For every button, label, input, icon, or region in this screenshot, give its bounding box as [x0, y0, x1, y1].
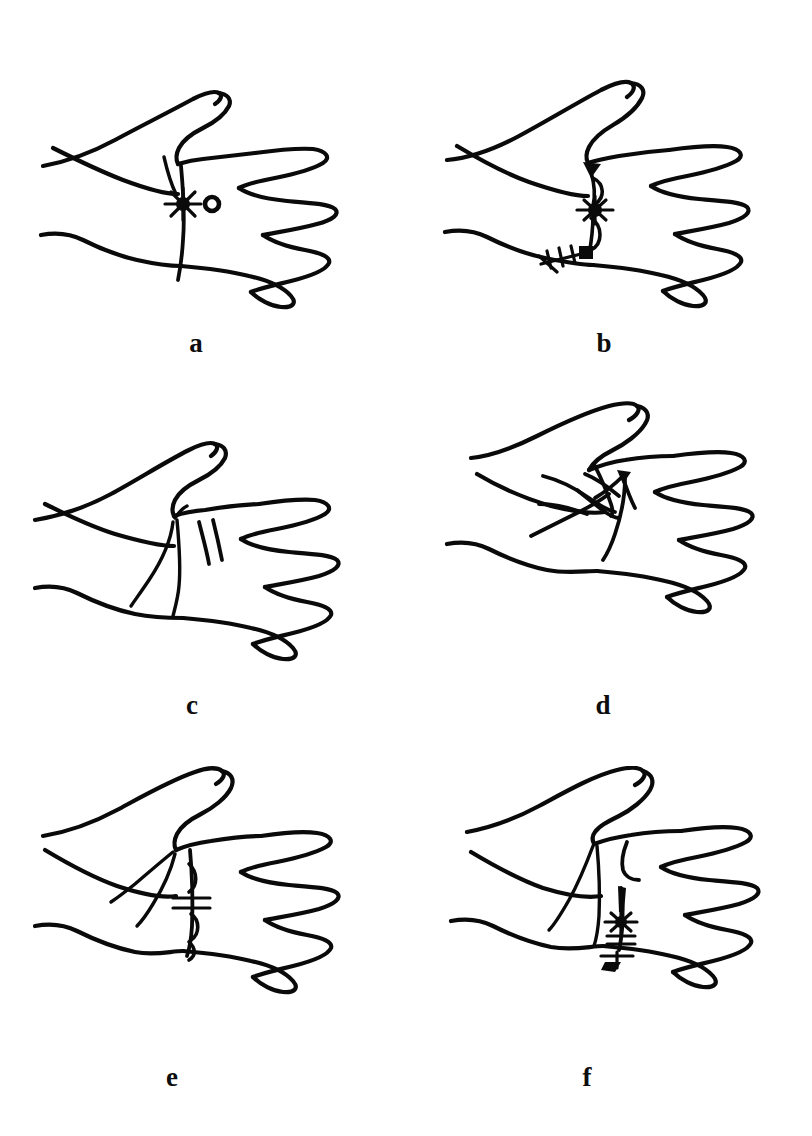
panel-grid: a — [0, 0, 812, 1136]
hand-drawing-c — [23, 400, 383, 672]
palmar-crease-2-c — [173, 520, 180, 616]
star-knot-icon — [577, 196, 613, 224]
panel-c: c — [0, 372, 406, 744]
wrist-contour — [447, 543, 597, 572]
hand-drawing-d — [429, 400, 789, 672]
panel-label-a: a — [189, 330, 203, 357]
index-finger-contour — [655, 452, 745, 492]
panel-a: a — [0, 0, 406, 372]
ring-finger-contour — [253, 920, 331, 977]
thumb-upper-contour — [467, 768, 645, 832]
open-circle-icon — [205, 197, 219, 211]
web-apex-contour — [176, 836, 261, 850]
panel-d: d — [406, 372, 812, 744]
middle-finger-contour — [241, 872, 339, 920]
little-finger-contour — [181, 266, 294, 307]
ring-finger-contour — [253, 587, 331, 644]
middle-finger-contour — [655, 492, 753, 540]
little-finger-contour — [597, 571, 710, 612]
wrist-contour — [35, 925, 183, 954]
star-knot-icon — [605, 910, 637, 934]
middle-finger-contour — [651, 186, 749, 234]
hand-drawing-b — [429, 52, 789, 324]
hook-flap-mark-f — [622, 842, 639, 880]
thenar-lower-contour — [45, 504, 174, 546]
thenar-lower-contour — [45, 850, 176, 897]
incision-mark-1-c — [199, 522, 209, 564]
dart-marker-f — [618, 886, 626, 912]
middle-finger-contour — [661, 867, 759, 915]
panel-b: b — [406, 0, 812, 372]
hand-drawing-a — [23, 52, 383, 324]
thenar-crease-1-f — [549, 846, 593, 930]
wrist-contour — [35, 587, 183, 618]
panel-label-b: b — [596, 330, 611, 357]
ring-finger-contour — [663, 234, 741, 291]
little-finger-contour — [183, 951, 296, 992]
panel-label-d: d — [595, 692, 610, 719]
little-finger-contour — [603, 946, 716, 987]
middle-finger-contour — [241, 539, 339, 587]
hand-drawing-f — [429, 766, 789, 1038]
panel-e: e — [0, 744, 406, 1136]
panel-label-e: e — [166, 1064, 178, 1091]
flap-tip-marker-b — [583, 162, 601, 178]
palmar-crease-1-c — [131, 522, 173, 606]
little-finger-contour — [183, 618, 296, 659]
web-apex-contour — [178, 153, 255, 164]
web-apex-contour — [588, 150, 669, 163]
web-apex-contour — [594, 831, 681, 844]
wrist-contour — [41, 234, 181, 266]
incision-line-a — [178, 166, 184, 280]
figure-sheet: a — [0, 0, 812, 1136]
panel-label-f: f — [583, 1064, 592, 1091]
thenar-lower-contour — [53, 148, 178, 194]
index-finger-contour — [661, 827, 751, 867]
web-crease-a — [164, 157, 176, 194]
flap-limb-4-d — [531, 494, 609, 536]
little-finger-contour — [593, 265, 706, 306]
thumb-upper-contour — [447, 82, 634, 160]
panel-f: f — [406, 744, 812, 1136]
ring-finger-contour — [251, 235, 329, 292]
ring-finger-contour — [667, 540, 745, 597]
thumb-upper-contour — [43, 768, 224, 836]
star-knot-icon — [165, 188, 201, 220]
panel-label-c: c — [186, 692, 198, 719]
incision-mark-2-c — [213, 520, 222, 560]
ring-finger-contour — [673, 915, 751, 972]
thumb-upper-contour — [35, 443, 217, 520]
wrist-contour — [451, 920, 603, 949]
t-stitch-icon — [601, 952, 633, 972]
hand-drawing-e — [23, 766, 383, 1038]
middle-finger-contour — [239, 188, 337, 235]
